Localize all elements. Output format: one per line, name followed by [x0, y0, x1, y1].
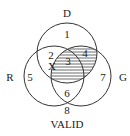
- region-5-label: 5: [27, 71, 33, 83]
- region-8-label: 8: [64, 104, 70, 116]
- region-7-label: 7: [100, 71, 106, 83]
- set-label-d: D: [63, 7, 71, 19]
- universe-label: VALID: [51, 118, 84, 130]
- region-3-label: 3: [65, 55, 71, 67]
- set-label-g: G: [119, 71, 127, 83]
- x-marker: X: [48, 60, 56, 72]
- set-label-r: R: [6, 71, 14, 83]
- region-1-label: 1: [64, 28, 70, 40]
- region-6-label: 6: [64, 87, 70, 99]
- venn-diagram: D R G 1 2 3 4 5 6 7 8 X VALID: [0, 0, 130, 136]
- region-4-label: 4: [82, 47, 88, 59]
